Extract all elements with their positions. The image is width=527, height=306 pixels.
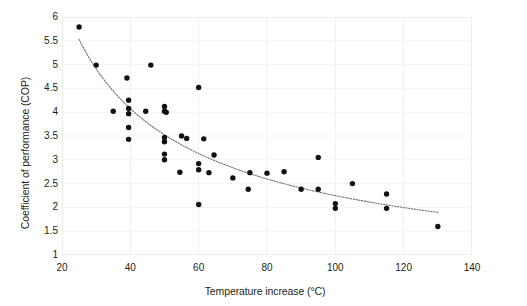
data-point [316, 155, 321, 160]
data-point [76, 24, 81, 29]
data-point [316, 187, 321, 192]
data-point [230, 175, 235, 180]
y-tick-label: 3.5 [30, 131, 58, 141]
data-point [162, 139, 167, 144]
data-point [246, 187, 251, 192]
x-tick-label: 120 [384, 263, 424, 273]
x-axis-tick-labels: 20406080100120140 [0, 263, 527, 277]
data-point [179, 133, 184, 138]
data-point [196, 85, 201, 90]
x-tick-label: 80 [247, 263, 287, 273]
data-point [126, 137, 131, 142]
data-point [435, 224, 440, 229]
y-tick-label: 4.5 [30, 83, 58, 93]
data-point [148, 62, 153, 67]
data-point [201, 136, 206, 141]
x-axis-title: Temperature increase (°C) [55, 285, 475, 297]
x-tick-label: 100 [315, 263, 355, 273]
data-point [126, 98, 131, 103]
data-point [298, 187, 303, 192]
data-point [281, 169, 286, 174]
x-tick-label: 140 [452, 263, 492, 273]
plot-svg [62, 17, 472, 255]
y-tick-label: 5.5 [30, 36, 58, 46]
data-point [111, 109, 116, 114]
data-point [196, 161, 201, 166]
data-point [164, 110, 169, 115]
data-point [211, 152, 216, 157]
x-tick-label: 20 [42, 263, 82, 273]
data-point [384, 191, 389, 196]
y-tick-label: 1.5 [30, 226, 58, 236]
gridlines [62, 17, 472, 255]
data-point [196, 167, 201, 172]
y-axis-tick-labels: 65.554.543.532.521.51 [28, 0, 58, 306]
y-tick-label: 4 [30, 107, 58, 117]
data-point [350, 181, 355, 186]
data-point [264, 170, 269, 175]
data-point [333, 201, 338, 206]
data-point [384, 206, 389, 211]
x-tick-label: 40 [110, 263, 150, 273]
data-point [184, 136, 189, 141]
data-point [162, 104, 167, 109]
scatter-chart-figure: Coefficient of performance (COP) 65.554.… [0, 0, 527, 306]
data-point [162, 157, 167, 162]
trendline [79, 39, 438, 212]
y-tick-label: 3 [30, 155, 58, 165]
data-point [206, 170, 211, 175]
plot-area [62, 17, 472, 255]
data-point [177, 169, 182, 174]
data-point [124, 75, 129, 80]
data-point [143, 109, 148, 114]
data-points [76, 24, 440, 229]
y-tick-label: 2.5 [30, 179, 58, 189]
data-point [196, 202, 201, 207]
data-point [162, 151, 167, 156]
data-point [247, 170, 252, 175]
data-point [333, 206, 338, 211]
y-tick-label: 6 [30, 12, 58, 22]
data-point [126, 106, 131, 111]
y-tick-label: 2 [30, 202, 58, 212]
data-point [93, 62, 98, 67]
y-tick-label: 1 [30, 250, 58, 260]
y-tick-label: 5 [30, 60, 58, 70]
data-point [126, 125, 131, 130]
x-tick-label: 60 [179, 263, 219, 273]
data-point [126, 111, 131, 116]
